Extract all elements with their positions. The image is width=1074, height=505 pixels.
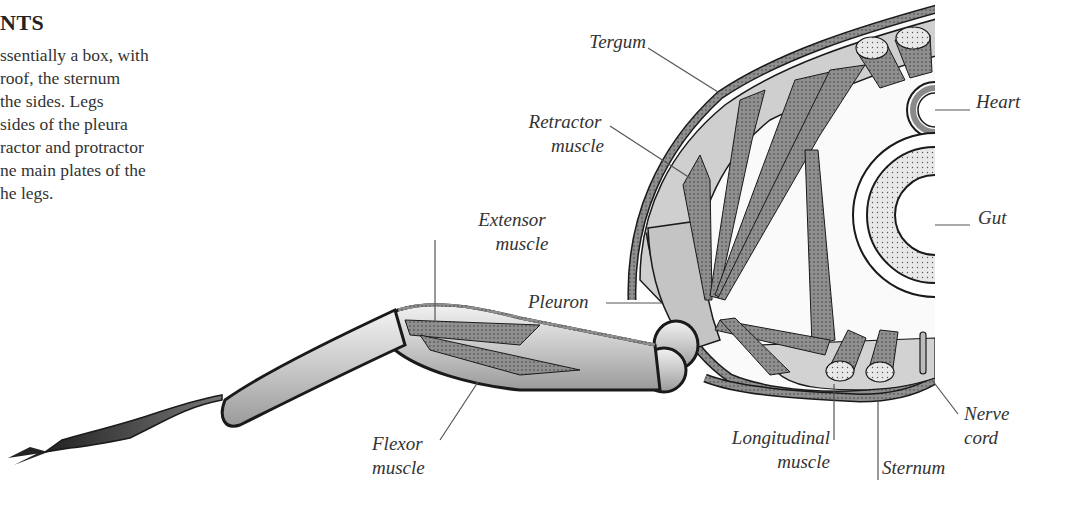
claw [8, 447, 48, 465]
label-pleuron: Pleuron [528, 290, 589, 314]
tibia [222, 310, 405, 426]
nerve-cord-shape [920, 332, 926, 374]
label-flexor-muscle: Flexor muscle [372, 432, 425, 480]
label-heart: Heart [976, 90, 1020, 114]
label-longitudinal-muscle: Longitudinal muscle [700, 426, 830, 474]
label-retractor-muscle: Retractor muscle [515, 110, 615, 158]
label-nerve-cord: Nerve cord [964, 402, 1009, 450]
label-tergum: Tergum [560, 30, 646, 54]
label-gut: Gut [978, 206, 1007, 230]
label-extensor-muscle: Extensor muscle [462, 208, 562, 256]
label-sternum: Sternum [882, 456, 945, 480]
tarsus [45, 395, 222, 452]
leg [8, 305, 698, 465]
